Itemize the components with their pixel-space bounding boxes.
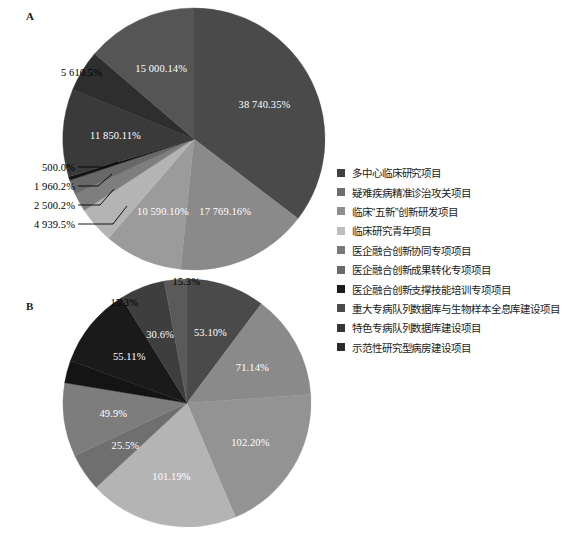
slice-value-label-outside: 5 610.5%	[61, 67, 102, 78]
legend-swatch-icon	[337, 285, 345, 293]
slice-value-label: 49.9%	[99, 408, 127, 419]
slice-value-label: 17 769.16%	[199, 206, 251, 217]
legend-swatch-icon	[337, 207, 345, 215]
slice-value-label: 53.10%	[194, 327, 227, 338]
legend-item: 临床“五新”创新研发项目	[337, 202, 581, 221]
slice-value-label-outside: 1 960.2%	[34, 181, 75, 192]
legend-item-label: 医企融合创新支撑技能培训专项项目	[352, 282, 510, 297]
slice-value-label: 71.14%	[236, 362, 269, 373]
legend-item: 医企融合创新支撑技能培训专项项目	[337, 279, 581, 298]
legend-item-label: 临床“五新”创新研发项目	[352, 204, 458, 219]
legend-item-label: 多中心临床研究项目	[352, 165, 441, 180]
slice-value-label-outside: 500.0%	[42, 162, 75, 173]
legend-item-label: 特色专病队列数据库建设项目	[352, 320, 481, 335]
legend-item: 重大专病队列数据库与生物样本全息库建设项目	[337, 299, 581, 318]
legend-item-label: 医企融合创新成果转化专项项目	[352, 262, 491, 277]
legend-swatch-icon	[337, 188, 345, 196]
legend-item-label: 示范性研究型病房建设项目	[352, 340, 471, 355]
legend-item-label: 疑难疾病精准诊治攻关项目	[352, 185, 471, 200]
legend-item-label: 临床研究青年项目	[352, 223, 431, 238]
panel-letter-a: A	[26, 10, 34, 22]
legend-item: 医企融合创新成果转化专项项目	[337, 260, 581, 279]
legend-swatch-icon	[337, 324, 345, 332]
legend-swatch-icon	[337, 343, 345, 351]
figure-root: A B 38 740.35%17 769.16%10 590.10%11 850…	[0, 0, 581, 544]
legend-swatch-icon	[337, 304, 345, 312]
legend-item-label: 医企融合创新协同专项项目	[352, 243, 471, 258]
slice-value-label: 38 740.35%	[239, 99, 291, 110]
legend-item: 示范性研究型病房建设项目	[337, 338, 581, 357]
legend-item: 特色专病队列数据库建设项目	[337, 318, 581, 337]
slice-value-label-outside: 15.3%	[110, 297, 138, 308]
slice-value-label-outside: 15.3%	[172, 276, 200, 287]
legend-swatch-icon	[337, 227, 345, 235]
legend-item-label: 重大专病队列数据库与生物样本全息库建设项目	[352, 301, 560, 316]
chart-legend: 多中心临床研究项目疑难疾病精准诊治攻关项目临床“五新”创新研发项目临床研究青年项…	[337, 163, 581, 357]
legend-item: 临床研究青年项目	[337, 221, 581, 240]
legend-swatch-icon	[337, 169, 345, 177]
legend-item: 多中心临床研究项目	[337, 163, 581, 182]
slice-value-label: 30.6%	[146, 328, 174, 339]
pie-chart-b	[63, 278, 311, 528]
slice-value-label: 15 000.14%	[135, 62, 187, 73]
slice-value-label-outside: 4 939.5%	[34, 219, 75, 230]
slice-value-label: 102.20%	[231, 436, 269, 447]
pie-b-svg	[63, 278, 311, 528]
panel-letter-b: B	[26, 300, 34, 312]
legend-swatch-icon	[337, 246, 345, 254]
slice-value-label: 101.19%	[152, 470, 190, 481]
slice-value-label: 11 850.11%	[90, 130, 141, 141]
slice-value-label: 10 590.10%	[137, 206, 189, 217]
slice-value-label-outside: 2 500.2%	[34, 200, 75, 211]
slice-value-label: 55.11%	[113, 351, 146, 362]
legend-item: 疑难疾病精准诊治攻关项目	[337, 182, 581, 201]
slice-value-label: 25.5%	[112, 439, 140, 450]
legend-item: 医企融合创新协同专项项目	[337, 241, 581, 260]
legend-swatch-icon	[337, 266, 345, 274]
